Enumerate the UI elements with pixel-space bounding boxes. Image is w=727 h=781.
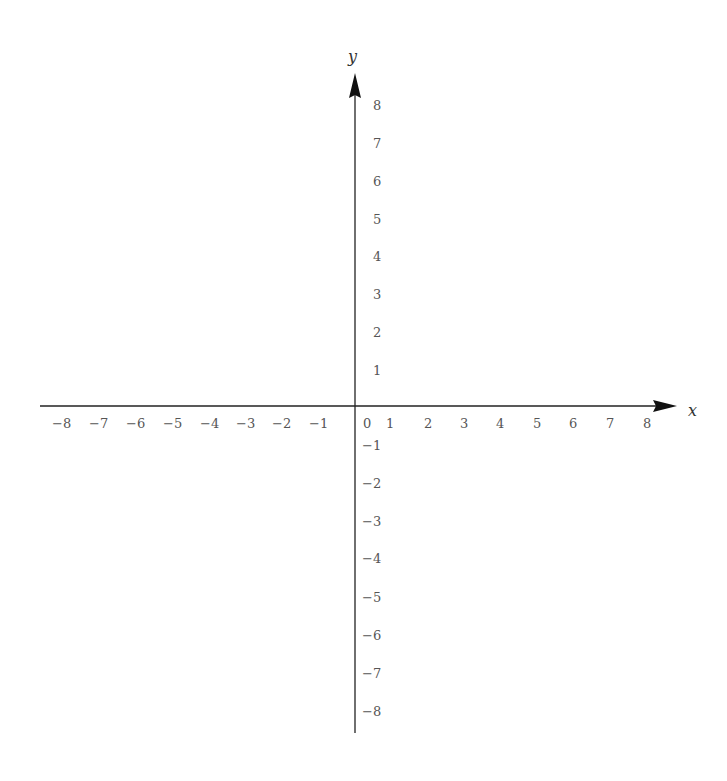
y-tick-labels: 8 7 6 5 4 3 2 1 −1 −2 −3 −4 −5 −6 −7 −8 — [362, 98, 381, 719]
x-tick-label: −1 — [309, 416, 328, 431]
x-tick-label: 6 — [569, 416, 577, 431]
x-tick-label: −7 — [89, 416, 108, 431]
x-tick-label: 3 — [460, 416, 468, 431]
y-tick-label: 6 — [373, 174, 381, 189]
x-tick-label: −5 — [163, 416, 182, 431]
origin-label: 0 — [363, 416, 371, 431]
x-axis-label: x — [688, 401, 697, 420]
x-tick-label: 8 — [643, 416, 651, 431]
y-tick-label: 3 — [373, 287, 381, 302]
y-tick-label: −1 — [362, 438, 381, 453]
y-tick-label: 8 — [373, 98, 381, 113]
y-axis-arrow-icon — [349, 73, 361, 98]
x-tick-label: 7 — [606, 416, 614, 431]
y-tick-label: −2 — [362, 476, 381, 491]
y-tick-label: 2 — [373, 325, 381, 340]
x-tick-label: −6 — [126, 416, 145, 431]
y-tick-label: −6 — [362, 628, 381, 643]
x-tick-label: −8 — [52, 416, 71, 431]
y-tick-label: −7 — [362, 666, 381, 681]
y-tick-label: 5 — [373, 212, 381, 227]
x-tick-label: 5 — [533, 416, 541, 431]
y-tick-label: 4 — [373, 249, 381, 264]
y-axis-label: y — [347, 47, 358, 66]
x-axis-arrow-icon — [653, 400, 677, 412]
coordinate-plane: x y 0 −8 −7 −6 −5 −4 −3 −2 −1 1 2 3 4 5 … — [0, 0, 727, 781]
y-tick-label: 1 — [373, 363, 381, 378]
y-tick-label: −5 — [362, 590, 381, 605]
x-tick-label: −4 — [200, 416, 219, 431]
y-tick-label: −3 — [362, 514, 381, 529]
x-tick-label: −3 — [236, 416, 255, 431]
y-tick-label: 7 — [373, 136, 381, 151]
x-tick-label: −2 — [272, 416, 291, 431]
x-tick-label: 2 — [424, 416, 432, 431]
y-tick-label: −4 — [362, 551, 381, 566]
x-tick-labels: −8 −7 −6 −5 −4 −3 −2 −1 1 2 3 4 5 6 7 8 — [52, 416, 651, 431]
x-tick-label: 1 — [386, 416, 394, 431]
x-tick-label: 4 — [496, 416, 504, 431]
y-tick-label: −8 — [362, 704, 381, 719]
